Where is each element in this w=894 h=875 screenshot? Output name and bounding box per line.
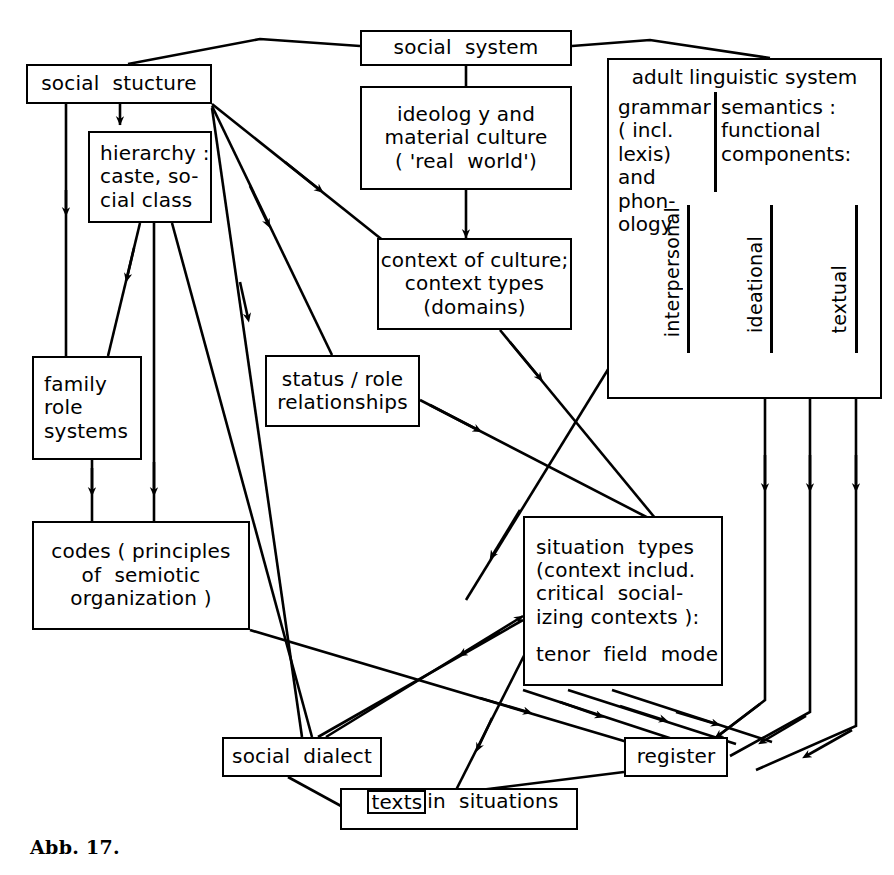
edge-situation-to-register-1-head: [560, 702, 600, 716]
als-component-interpersonal: interpersonal: [661, 207, 683, 337]
diagram-canvas: social system social stucture hierarchy …: [0, 0, 894, 875]
node-social-dialect-label: social dialect: [232, 745, 372, 768]
als-component-divider-1: [687, 205, 690, 353]
node-ideology-material-culture[interactable]: ideolog y and material culture ( 'real w…: [360, 86, 572, 190]
als-grammar-divider: [714, 92, 717, 192]
figure-caption: Abb. 17.: [30, 836, 120, 858]
node-situation-line5: tenor field mode: [536, 643, 718, 666]
node-social-system-label: social system: [394, 36, 539, 59]
node-ideology-line3: ( 'real world'): [395, 150, 537, 173]
node-register-label: register: [637, 745, 716, 768]
als-semantics-line2: functional: [721, 118, 821, 142]
edge-social-system-to-social-structure: [128, 39, 360, 64]
node-context-line1: context of culture;: [381, 249, 569, 272]
node-codes-line3: organization ): [70, 587, 211, 610]
node-family-line2: role: [44, 396, 83, 419]
edge-situation-to-register-3-head: [676, 712, 716, 724]
node-status-role-line1: status / role: [282, 368, 403, 391]
edge-context-culture-to-situation-head: [510, 342, 540, 378]
node-codes-line2: of semiotic: [82, 564, 201, 587]
node-situation-line3: critical social-: [536, 582, 683, 605]
node-social-structure[interactable]: social stucture: [26, 64, 212, 104]
node-texts-in-situations[interactable]: texts in situations: [340, 788, 578, 830]
node-family-role-systems[interactable]: family role systems: [32, 356, 142, 460]
als-component-divider-2: [770, 205, 773, 353]
node-codes[interactable]: codes ( principles of semiotic organizat…: [32, 521, 250, 630]
node-status-role-relationships[interactable]: status / role relationships: [265, 355, 420, 427]
edge-als-to-situation-head: [492, 510, 520, 556]
als-component-textual: textual: [828, 265, 850, 334]
node-context-line3: (domains): [423, 296, 526, 319]
edge-social-structure-to-status-role-head: [250, 186, 268, 224]
als-grammar-line3: lexis): [618, 142, 671, 166]
edge-social-system-to-als: [572, 40, 770, 58]
node-hierarchy-line2: caste, so-: [100, 165, 199, 188]
edge-ideational-to-register: [730, 399, 810, 756]
edge-situation-to-texts-head: [478, 718, 492, 748]
edge-ideational-head-end: [762, 716, 806, 742]
edge-textual-head-end: [806, 730, 852, 756]
edge-hierarchy-to-family: [108, 223, 140, 356]
als-grammar-line2: ( incl.: [618, 118, 673, 142]
als-semantics-line3: components:: [721, 142, 851, 166]
node-ideology-line2: material culture: [385, 126, 548, 149]
node-social-structure-label: social stucture: [41, 72, 196, 95]
edge-hierarchy-to-social-dialect: [172, 223, 312, 737]
node-register[interactable]: register: [624, 737, 728, 777]
als-component-ideational: ideational: [744, 236, 766, 333]
edge-hierarchy-to-family-head: [127, 248, 134, 278]
als-title: adult linguistic system: [609, 65, 880, 89]
als-grammar-line4: and phon-: [618, 165, 676, 212]
node-family-line3: systems: [44, 420, 128, 443]
node-adult-linguistic-system[interactable]: adult linguistic system grammar ( incl. …: [607, 58, 882, 399]
node-hierarchy[interactable]: hierarchy : caste, so- cial class: [88, 131, 212, 223]
edge-status-role-to-situation-head: [430, 405, 478, 430]
node-situation-line2: (context includ.: [536, 559, 695, 582]
als-semantics-column: semantics : functional components:: [721, 96, 876, 166]
node-situation-types[interactable]: situation types (context includ. critica…: [523, 516, 723, 686]
node-texts-inner-label[interactable]: texts: [367, 790, 426, 814]
node-context-line2: context types: [405, 272, 544, 295]
node-texts-rest-label: in situations: [427, 790, 558, 813]
node-situation-line4: izing contexts ):: [536, 606, 699, 629]
node-family-line1: family: [44, 373, 107, 396]
edge-situation-to-register-2-head: [620, 706, 664, 720]
node-social-dialect[interactable]: social dialect: [222, 737, 382, 777]
node-ideology-line1: ideolog y and: [397, 103, 535, 126]
node-social-system[interactable]: social system: [360, 30, 572, 66]
edge-social-structure-to-context-culture-head: [285, 162, 320, 190]
node-situation-line1: situation types: [536, 536, 694, 559]
node-status-role-line2: relationships: [277, 391, 408, 414]
als-grammar-line1: grammar: [618, 95, 711, 119]
als-component-divider-3: [855, 205, 858, 353]
node-hierarchy-line1: hierarchy :: [100, 142, 210, 165]
node-context-of-culture[interactable]: context of culture; context types (domai…: [377, 238, 572, 330]
node-hierarchy-line3: cial class: [100, 189, 192, 212]
node-codes-line1: codes ( principles: [51, 540, 230, 563]
edge-codes-to-register-head: [480, 698, 528, 712]
als-semantics-line1: semantics :: [721, 95, 836, 119]
